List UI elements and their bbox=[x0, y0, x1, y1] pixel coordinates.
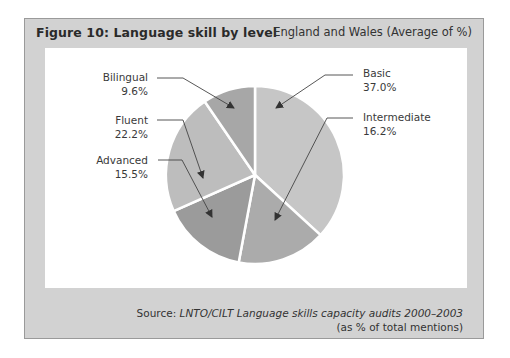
label-advanced-name: Advanced bbox=[96, 153, 148, 167]
label-basic-name: Basic bbox=[363, 66, 396, 80]
label-basic-value: 37.0% bbox=[363, 80, 396, 94]
pie-chart bbox=[0, 0, 510, 358]
label-bilingual-value: 9.6% bbox=[103, 84, 148, 98]
label-advanced: Advanced 15.5% bbox=[96, 153, 148, 181]
source-unit-note: (as % of total mentions) bbox=[137, 320, 463, 334]
label-intermediate-value: 16.2% bbox=[363, 124, 431, 138]
label-bilingual: Bilingual 9.6% bbox=[103, 70, 148, 98]
source-note: Source: LNTO/CILT Language skills capaci… bbox=[137, 306, 463, 334]
label-fluent-name: Fluent bbox=[115, 113, 148, 127]
source-prefix: Source: bbox=[137, 307, 180, 319]
label-basic: Basic 37.0% bbox=[363, 66, 396, 94]
label-intermediate: Intermediate 16.2% bbox=[363, 110, 431, 138]
label-advanced-value: 15.5% bbox=[96, 167, 148, 181]
label-bilingual-name: Bilingual bbox=[103, 70, 148, 84]
source-citation: LNTO/CILT Language skills capacity audit… bbox=[180, 307, 463, 319]
label-fluent-value: 22.2% bbox=[115, 127, 148, 141]
label-fluent: Fluent 22.2% bbox=[115, 113, 148, 141]
label-intermediate-name: Intermediate bbox=[363, 110, 431, 124]
pie-slices bbox=[166, 86, 344, 264]
